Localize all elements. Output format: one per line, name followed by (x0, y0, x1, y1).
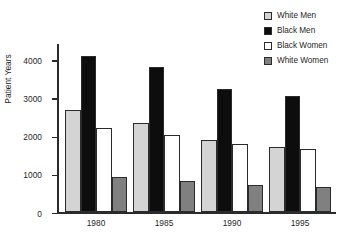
bar-group (133, 44, 195, 212)
legend-item[interactable]: Black Men (264, 24, 352, 37)
bar[interactable] (96, 128, 112, 212)
bar[interactable] (65, 110, 81, 212)
x-axis-line (57, 212, 336, 214)
bar[interactable] (133, 123, 149, 212)
y-axis-tick (52, 137, 57, 138)
y-axis-tick-label: 2000 (0, 133, 42, 141)
bar[interactable] (217, 89, 233, 213)
bar-chart-figure: White MenBlack MenBlack WomenWhite Women… (0, 0, 353, 242)
legend-swatch-icon (264, 27, 272, 35)
bar[interactable] (316, 187, 332, 213)
legend-item-label: Black Men (277, 26, 315, 35)
legend-item[interactable]: White Men (264, 9, 352, 22)
y-axis-tick-label: 0 (0, 210, 42, 218)
y-axis-tick (52, 98, 57, 99)
bar-group (201, 44, 263, 212)
y-axis-tick (52, 175, 57, 176)
bar[interactable] (81, 56, 97, 213)
y-axis-tick-labels: 01000200030004000 (0, 44, 50, 214)
y-axis-tick-label: 3000 (0, 95, 42, 103)
legend-item-label: White Men (277, 11, 316, 20)
bar[interactable] (248, 185, 264, 212)
y-axis-tick-label: 1000 (0, 171, 42, 179)
bar[interactable] (201, 140, 217, 212)
bar[interactable] (180, 181, 196, 213)
y-axis-tick (52, 60, 57, 61)
y-axis-tick (52, 213, 57, 214)
bar[interactable] (149, 67, 165, 213)
bar[interactable] (300, 149, 316, 213)
bar-group (65, 44, 127, 212)
y-axis-line (57, 44, 59, 214)
bar[interactable] (285, 96, 301, 213)
bar[interactable] (112, 177, 128, 212)
bar[interactable] (232, 144, 248, 213)
x-axis-tick-label: 1995 (259, 218, 341, 228)
legend-swatch-icon (264, 12, 272, 20)
bar[interactable] (269, 147, 285, 213)
y-axis-tick-label: 4000 (0, 57, 42, 65)
bar-group (269, 44, 331, 212)
plot-area: 1980198519901995 (57, 44, 336, 214)
bar[interactable] (164, 135, 180, 213)
